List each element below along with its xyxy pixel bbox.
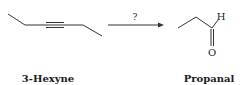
hydrogen-atom-label: H xyxy=(217,11,226,22)
hexyne-left-chain xyxy=(8,14,46,25)
reaction-scheme: ? H O 3-Hexyne Propanal xyxy=(0,0,245,85)
arrowhead-icon xyxy=(158,23,164,28)
reaction-arrow xyxy=(108,23,164,28)
hexyne-structure xyxy=(8,14,102,36)
propanal-chain xyxy=(178,17,212,28)
reagent-question-mark: ? xyxy=(133,12,138,22)
propanal-structure xyxy=(178,17,218,46)
hexyne-right-chain xyxy=(64,25,102,36)
oxygen-atom-label: O xyxy=(208,47,216,58)
reactant-name: 3-Hexyne xyxy=(22,73,74,84)
product-name: Propanal xyxy=(184,73,235,84)
